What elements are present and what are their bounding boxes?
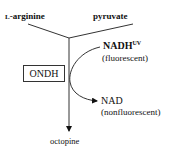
cofactor-nadh: NADHUV xyxy=(103,41,141,51)
cofactor-nad: NAD xyxy=(101,96,123,106)
enzyme-box: ONDH xyxy=(23,65,65,82)
product-octopine: octopine xyxy=(50,137,79,146)
cofactor-arrow xyxy=(70,47,100,101)
nad-note: (nonfluorescent) xyxy=(101,108,160,117)
substrate-pyruvate: pyruvate xyxy=(93,12,128,21)
substrate-arginine: L-arginine xyxy=(5,12,45,21)
reaction-diagram: L-arginine pyruvate NADHUV (fluorescent)… xyxy=(0,0,180,150)
nadh-superscript: UV xyxy=(132,40,141,46)
enzyme-label: ONDH xyxy=(30,68,59,79)
nadh-note: (fluorescent) xyxy=(102,54,148,63)
arginine-suffix: -arginine xyxy=(10,11,45,21)
arginine-line xyxy=(28,24,69,38)
pyruvate-line xyxy=(69,24,133,38)
nadh-label: NADH xyxy=(103,40,132,51)
